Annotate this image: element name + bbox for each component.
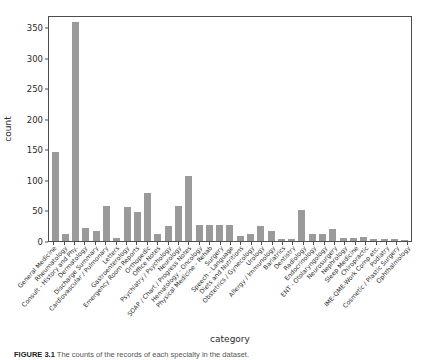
figure-container: count 050100150200250300350 General Medi…: [0, 0, 440, 360]
bar-slot: [389, 17, 399, 241]
bar-slot: [132, 17, 142, 241]
y-axis: count 050100150200250300350: [0, 16, 48, 242]
bar: [257, 226, 264, 241]
bar-slot: [194, 17, 204, 241]
bar: [185, 176, 192, 241]
bar-slot: [307, 17, 317, 241]
figure-caption-label: FIGURE 3.1: [14, 350, 55, 359]
bar: [350, 238, 357, 241]
bar-slot: [173, 17, 183, 241]
y-tick-label: 350: [27, 24, 43, 33]
bar-slot: [215, 17, 225, 241]
bar-slot: [50, 17, 60, 241]
bar: [298, 210, 305, 241]
bar: [52, 152, 59, 241]
bar-slot: [369, 17, 379, 241]
bar-slot: [400, 17, 410, 241]
bar: [82, 228, 89, 241]
bar-slot: [256, 17, 266, 241]
bar: [154, 234, 161, 241]
bar-slot: [338, 17, 348, 241]
bar: [237, 236, 244, 241]
bar: [72, 22, 79, 241]
bar-slot: [317, 17, 327, 241]
figure-caption-text: The counts of the records of each specia…: [57, 350, 249, 359]
bar: [391, 239, 398, 241]
bar-slot: [163, 17, 173, 241]
x-axis-tick-labels: General MedicineRheumatologyConsult - Hi…: [48, 245, 412, 335]
bar-slot: [266, 17, 276, 241]
bar: [175, 206, 182, 241]
bar: [165, 226, 172, 241]
bar: [360, 237, 367, 241]
bar: [278, 239, 285, 241]
bar-slot: [235, 17, 245, 241]
y-tick-label: 100: [27, 177, 43, 186]
bar-slot: [379, 17, 389, 241]
bar-slot: [245, 17, 255, 241]
bar: [381, 239, 388, 241]
bar-slot: [358, 17, 368, 241]
bar: [103, 206, 110, 241]
bar-slot: [143, 17, 153, 241]
y-tick-label: 200: [27, 116, 43, 125]
bar-slot: [297, 17, 307, 241]
bar-slot: [91, 17, 101, 241]
bar: [124, 207, 131, 241]
bar-series: [49, 17, 411, 241]
bar-slot: [81, 17, 91, 241]
bar-slot: [60, 17, 70, 241]
bar: [206, 225, 213, 241]
bar-slot: [101, 17, 111, 241]
y-tick-label: 50: [32, 207, 43, 216]
bar-slot: [328, 17, 338, 241]
bar: [319, 234, 326, 241]
bar: [288, 239, 295, 241]
y-tick-label: 250: [27, 85, 43, 94]
bar: [62, 234, 69, 241]
bar: [329, 229, 336, 241]
bar: [134, 212, 141, 241]
bar-slot: [71, 17, 81, 241]
bar: [93, 231, 100, 241]
bar: [268, 231, 275, 241]
bar: [340, 238, 347, 241]
bar: [401, 240, 408, 241]
bar-slot: [276, 17, 286, 241]
y-tick-label: 150: [27, 146, 43, 155]
bar: [113, 238, 120, 241]
bar-slot: [286, 17, 296, 241]
bar: [144, 193, 151, 241]
bar-slot: [204, 17, 214, 241]
bar: [226, 225, 233, 241]
plot-area: [48, 16, 412, 242]
figure-caption: FIGURE 3.1 The counts of the records of …: [14, 350, 434, 359]
bar: [309, 234, 316, 241]
y-axis-label: count: [3, 99, 13, 159]
bar: [216, 225, 223, 241]
bar-slot: [112, 17, 122, 241]
y-tick-label: 300: [27, 55, 43, 64]
bar: [247, 234, 254, 241]
bar: [196, 225, 203, 241]
bar: [370, 239, 377, 241]
y-tick-label: 0: [38, 238, 43, 247]
bar-slot: [122, 17, 132, 241]
x-axis-label: category: [48, 334, 412, 344]
bar-slot: [348, 17, 358, 241]
bar-slot: [184, 17, 194, 241]
bar-slot: [225, 17, 235, 241]
bar-slot: [153, 17, 163, 241]
